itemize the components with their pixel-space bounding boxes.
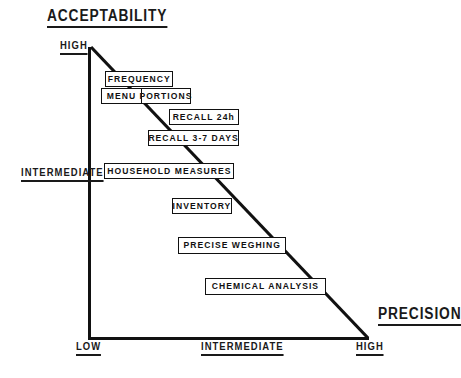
method-label-recall-24h: RECALL 24h	[173, 113, 235, 122]
y-axis-tick-high: HIGH	[60, 40, 88, 55]
x-axis-tick-low: LOW	[76, 341, 101, 356]
method-box-chemical-analysis: CHEMICAL ANALYSIS	[205, 278, 326, 295]
method-box-precise-weghing: PRECISE WEGHING	[178, 237, 286, 254]
y-axis-tick-intermediate: INTERMEDIATE	[21, 167, 104, 182]
y-axis-title: ACCEPTABILITY	[47, 8, 167, 28]
method-label-portions: PORTIONS	[139, 92, 192, 101]
method-box-portions: PORTIONS	[141, 88, 191, 104]
method-box-recall-24h: RECALL 24h	[169, 109, 239, 125]
method-label-frequency: FREQUENCY	[107, 75, 170, 84]
method-box-household-measures: HOUSEHOLD MEASURES	[104, 163, 234, 179]
method-label-menu: MENU	[107, 92, 136, 101]
x-axis-tick-intermediate: INTERMEDIATE	[201, 341, 284, 356]
method-label-household-measures: HOUSEHOLD MEASURES	[107, 167, 231, 176]
method-label-recall-3-7-days: RECALL 3-7 DAYS	[148, 134, 238, 143]
method-box-recall-3-7-days: RECALL 3-7 DAYS	[148, 130, 239, 146]
method-box-inventory: INVENTORY	[172, 198, 232, 214]
method-label-precise-weghing: PRECISE WEGHING	[183, 241, 280, 250]
method-box-frequency: FREQUENCY	[105, 71, 173, 87]
method-box-menu: MENU	[101, 88, 142, 104]
method-label-chemical-analysis: CHEMICAL ANALYSIS	[212, 282, 319, 291]
method-label-inventory: INVENTORY	[173, 202, 232, 211]
x-axis-tick-high: HIGH	[356, 341, 384, 356]
x-axis-title: PRECISION	[378, 306, 461, 326]
